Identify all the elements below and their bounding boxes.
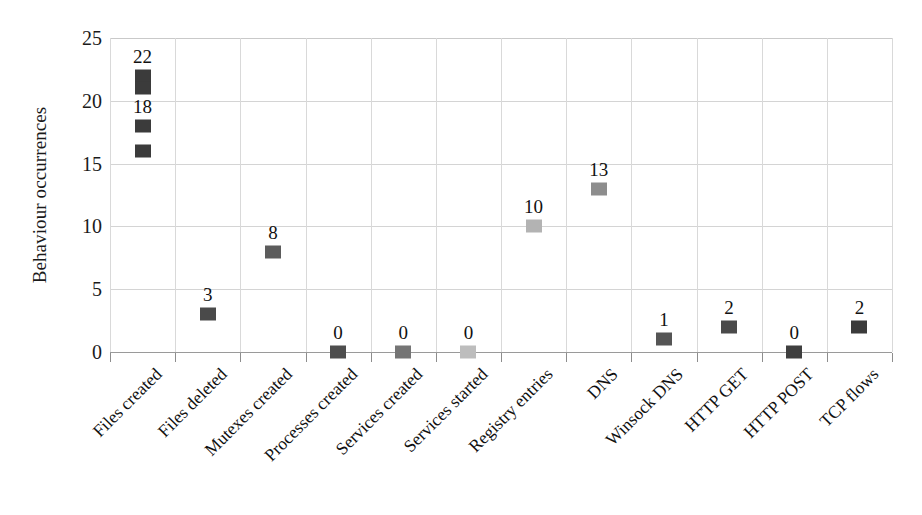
data-point-marker xyxy=(851,320,867,333)
data-point-value-label: 10 xyxy=(524,197,543,216)
gridline-vertical-7 xyxy=(566,38,567,352)
x-axis-tick-10 xyxy=(762,353,763,362)
data-point-value-label: 0 xyxy=(333,323,343,342)
x-axis-tick-0 xyxy=(110,353,111,362)
x-axis-tick-1 xyxy=(175,353,176,362)
data-point-value-label: 2 xyxy=(724,298,734,317)
data-point-marker xyxy=(460,346,476,359)
x-axis-tick-4 xyxy=(371,353,372,362)
data-point-marker xyxy=(330,346,346,359)
data-point-value-label: 0 xyxy=(464,323,474,342)
data-point-value-label: 18 xyxy=(133,97,152,116)
data-point-marker xyxy=(135,145,151,158)
data-point-marker xyxy=(200,308,216,321)
x-axis-tick-9 xyxy=(697,353,698,362)
gridline-vertical-9 xyxy=(697,38,698,352)
gridline-vertical-1 xyxy=(175,38,176,352)
data-point-marker xyxy=(721,320,737,333)
x-axis-tick-8 xyxy=(631,353,632,362)
y-axis-tick-0: 0 xyxy=(56,342,102,362)
data-point-value-label: 0 xyxy=(790,323,800,342)
data-point-value-label: 8 xyxy=(268,223,278,242)
data-point-value-label: 22 xyxy=(133,47,152,66)
y-axis-tick-5: 5 xyxy=(56,279,102,299)
x-axis-tick-5 xyxy=(436,353,437,362)
x-axis-tick-11 xyxy=(827,353,828,362)
data-point-value-label: 1 xyxy=(659,310,669,329)
x-axis-tick-2 xyxy=(240,353,241,362)
data-point-marker xyxy=(265,245,281,258)
gridline-vertical-0 xyxy=(110,38,111,352)
gridline-vertical-2 xyxy=(240,38,241,352)
gridline-vertical-11 xyxy=(827,38,828,352)
data-point-value-label: 2 xyxy=(855,298,865,317)
gridline-vertical-8 xyxy=(631,38,632,352)
data-point-marker xyxy=(526,220,542,233)
y-axis-tick-25: 25 xyxy=(56,28,102,48)
gridline-vertical-5 xyxy=(436,38,437,352)
plot-area xyxy=(110,38,892,352)
gridline-vertical-12 xyxy=(892,38,893,352)
gridline-vertical-3 xyxy=(306,38,307,352)
x-axis-tick-3 xyxy=(306,353,307,362)
gridline-vertical-6 xyxy=(501,38,502,352)
x-axis-tick-7 xyxy=(566,353,567,362)
data-point-marker xyxy=(786,346,802,359)
data-point-value-label: 13 xyxy=(589,160,608,179)
y-axis-tick-15: 15 xyxy=(56,154,102,174)
data-point-marker xyxy=(656,333,672,346)
data-point-value-label: 0 xyxy=(399,323,409,342)
x-axis-tick-6 xyxy=(501,353,502,362)
data-point-marker xyxy=(395,346,411,359)
data-point-value-label: 3 xyxy=(203,285,213,304)
y-axis-tick-20: 20 xyxy=(56,91,102,111)
data-point-marker xyxy=(591,182,607,195)
data-point-marker xyxy=(135,82,151,95)
gridline-vertical-10 xyxy=(762,38,763,352)
data-point-marker xyxy=(135,119,151,132)
gridline-vertical-4 xyxy=(371,38,372,352)
x-axis-tick-12 xyxy=(892,353,893,362)
data-point-marker xyxy=(135,69,151,82)
y-axis-tick-10: 10 xyxy=(56,216,102,236)
behaviour-occurrences-chart: Behaviour occurrences 2520151050 Files c… xyxy=(0,0,922,515)
